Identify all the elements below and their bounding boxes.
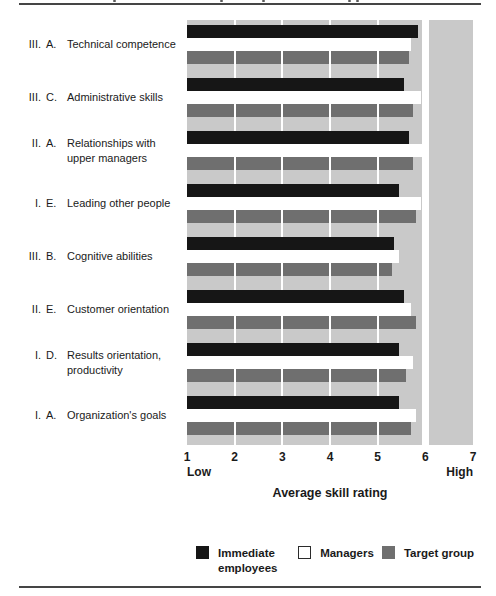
bar-target-group bbox=[187, 263, 392, 276]
category-label-row: III.C.Administrative skills bbox=[14, 78, 186, 117]
legend: Immediate employeesManagersTarget group bbox=[196, 546, 474, 575]
legend-swatch-managers bbox=[298, 546, 311, 559]
x-tick-label-3: 3 bbox=[279, 450, 286, 464]
chart-page: III.A.Technical competenceIII.C.Administ… bbox=[0, 0, 496, 596]
bar-managers bbox=[187, 144, 423, 157]
bar-managers bbox=[187, 250, 399, 263]
category-letter: C. bbox=[46, 90, 62, 105]
cropped-text-remnants bbox=[0, 0, 496, 2]
x-tick-label-7: 7 bbox=[470, 450, 477, 464]
category-roman: I. bbox=[14, 408, 41, 423]
category-label-row: II.E.Customer orientation bbox=[14, 290, 186, 329]
legend-swatch-target-group bbox=[382, 546, 395, 559]
category-labels: III.A.Technical competenceIII.C.Administ… bbox=[14, 20, 186, 445]
category-roman: I. bbox=[14, 348, 41, 377]
category-letter: A. bbox=[46, 408, 62, 423]
bar-immediate-employees bbox=[187, 237, 394, 250]
category-letter: E. bbox=[46, 302, 62, 317]
category-roman: III. bbox=[14, 37, 41, 52]
category-label-row: III.A.Technical competence bbox=[14, 25, 186, 64]
chart-panel bbox=[187, 20, 473, 445]
bar-target-group bbox=[187, 369, 406, 382]
category-label-row: I.E.Leading other people bbox=[14, 184, 186, 223]
bar-target-group bbox=[187, 51, 409, 64]
legend-label: Immediate employees bbox=[218, 546, 290, 575]
bar-immediate-employees bbox=[187, 25, 418, 38]
bar-immediate-employees bbox=[187, 78, 404, 91]
legend-item: Managers bbox=[298, 546, 374, 575]
bar-immediate-employees bbox=[187, 396, 399, 409]
bar-immediate-employees bbox=[187, 343, 399, 356]
reference-line-6 bbox=[422, 20, 429, 445]
legend-item: Target group bbox=[382, 546, 474, 575]
bar-managers bbox=[187, 91, 421, 104]
category-letter: B. bbox=[46, 249, 62, 264]
bar-immediate-employees bbox=[187, 290, 404, 303]
x-axis: 1234567 bbox=[187, 450, 473, 464]
bar-managers bbox=[187, 356, 413, 369]
category-label-row: II.A.Relationships with upper managers bbox=[14, 131, 186, 170]
x-tick-label-6: 6 bbox=[422, 450, 429, 464]
category-label-row: III.B.Cognitive abilities bbox=[14, 237, 186, 276]
category-text: Relationships with upper managers bbox=[67, 136, 185, 165]
bar-target-group bbox=[187, 157, 413, 170]
x-axis-title: Average skill rating bbox=[187, 486, 473, 500]
category-text: Customer orientation bbox=[67, 302, 169, 317]
category-roman: III. bbox=[14, 90, 41, 105]
category-text: Cognitive abilities bbox=[67, 249, 153, 264]
category-text: Organization's goals bbox=[67, 408, 166, 423]
x-tick-label-4: 4 bbox=[327, 450, 334, 464]
category-letter: A. bbox=[46, 136, 62, 165]
x-tick-label-1: 1 bbox=[184, 450, 191, 464]
axis-high-label: High bbox=[187, 465, 473, 479]
category-letter: E. bbox=[46, 196, 62, 211]
legend-item: Immediate employees bbox=[196, 546, 290, 575]
top-rule bbox=[19, 3, 481, 5]
bar-immediate-employees bbox=[187, 184, 399, 197]
category-label-row: I.D.Results orientation, productivity bbox=[14, 343, 186, 382]
bar-target-group bbox=[187, 210, 416, 223]
legend-label: Managers bbox=[320, 546, 374, 561]
category-label-row: I.A.Organization's goals bbox=[14, 396, 186, 435]
category-text: Administrative skills bbox=[67, 90, 163, 105]
category-roman: II. bbox=[14, 302, 41, 317]
category-text: Leading other people bbox=[67, 196, 170, 211]
category-letter: A. bbox=[46, 37, 62, 52]
bottom-rule bbox=[19, 586, 481, 588]
x-tick-label-2: 2 bbox=[231, 450, 238, 464]
bar-managers bbox=[187, 409, 416, 422]
bar-target-group bbox=[187, 316, 416, 329]
category-roman: III. bbox=[14, 249, 41, 264]
legend-swatch-immediate-employees bbox=[196, 546, 209, 559]
x-tick-label-5: 5 bbox=[374, 450, 381, 464]
bar-managers bbox=[187, 197, 421, 210]
category-roman: II. bbox=[14, 136, 41, 165]
bar-immediate-employees bbox=[187, 131, 409, 144]
category-letter: D. bbox=[46, 348, 62, 377]
category-text: Results orientation, productivity bbox=[67, 348, 185, 377]
legend-label: Target group bbox=[404, 546, 474, 561]
category-text: Technical competence bbox=[67, 37, 176, 52]
category-roman: I. bbox=[14, 196, 41, 211]
bar-target-group bbox=[187, 104, 413, 117]
